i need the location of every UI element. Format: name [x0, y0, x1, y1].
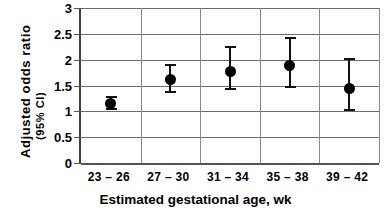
y-axis-tick: [74, 60, 81, 61]
y-axis-tick-label: 1: [65, 104, 72, 119]
x-axis-title: Estimated gestational age, wk: [0, 192, 391, 207]
y-axis-tick-label: 0: [65, 156, 72, 171]
y-axis-tick: [74, 86, 81, 87]
x-axis-tick-label: 31 – 34: [207, 170, 249, 184]
y-gridline: [81, 137, 379, 138]
chart-figure: Adjusted odds ratio (95% CI) 00.511.522.…: [0, 0, 391, 215]
y-axis-tick: [74, 8, 81, 9]
y-axis-tick-label: 1.5: [54, 78, 72, 93]
y-gridline: [81, 163, 379, 165]
data-marker: [284, 60, 295, 71]
error-bar-cap-upper: [344, 58, 355, 60]
y-gridline: [81, 8, 379, 9]
y-gridline: [81, 34, 379, 35]
x-gridline: [319, 8, 320, 163]
error-bar-cap-lower: [285, 86, 296, 88]
y-axis-tick-label: 0.5: [54, 130, 72, 145]
error-bar-cap-upper: [285, 37, 296, 39]
data-marker: [344, 83, 355, 94]
x-axis-tick-label: 39 – 42: [326, 170, 368, 184]
error-bar-cap-lower: [344, 109, 355, 111]
x-axis-tick-label: 27 – 30: [147, 170, 189, 184]
y-axis-tick: [74, 111, 81, 112]
error-bar-cap-upper: [165, 64, 176, 66]
x-axis-tick-label: 23 – 26: [88, 170, 130, 184]
x-gridline: [141, 8, 142, 163]
plot-area: [79, 8, 379, 163]
error-bar-cap-upper: [225, 46, 236, 48]
data-marker: [165, 74, 176, 85]
y-axis-tick: [74, 137, 81, 138]
y-axis-title: Adjusted odds ratio (95% CI): [0, 0, 44, 170]
x-gridline: [379, 8, 380, 163]
y-axis-tick-label: 2: [65, 52, 72, 67]
y-axis-tick-labels: 00.511.522.53: [40, 8, 72, 163]
y-axis-tick: [74, 34, 81, 35]
error-bar-cap-lower: [165, 91, 176, 93]
y-gridline: [81, 111, 379, 112]
x-gridline: [200, 8, 201, 163]
data-marker: [225, 66, 236, 77]
y-axis-title-line1: Adjusted odds ratio: [18, 25, 33, 158]
y-axis-tick: [74, 163, 81, 164]
error-bar-cap-lower: [225, 88, 236, 90]
x-axis-tick-label: 35 – 38: [267, 170, 309, 184]
x-axis-tick-labels: 23 – 2627 – 3031 – 3435 – 3839 – 42: [79, 170, 377, 186]
y-axis-tick-label: 2.5: [54, 26, 72, 41]
x-gridline: [260, 8, 261, 163]
y-axis-tick-label: 3: [65, 1, 72, 16]
